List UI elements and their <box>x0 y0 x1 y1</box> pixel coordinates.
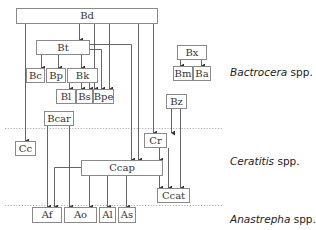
node-ba: Ba <box>193 66 211 81</box>
node-bz: Bz <box>166 94 187 109</box>
node-bpe: Bpe <box>93 89 114 104</box>
node-ccat: Ccat <box>157 188 190 203</box>
node-bk: Bk <box>67 68 98 83</box>
node-cc: Cc <box>15 141 36 156</box>
node-bs: Bs <box>76 89 93 104</box>
group-label-anastrepha: Anastrepha spp. <box>230 213 316 225</box>
node-af: Af <box>32 207 62 223</box>
genus-name: Bactrocera <box>230 66 287 78</box>
node-bt: Bt <box>36 40 90 55</box>
node-bm: Bm <box>173 66 193 81</box>
node-bc: Bc <box>26 68 45 83</box>
node-as: As <box>118 207 136 223</box>
genus-suffix: spp. <box>287 66 312 78</box>
node-bp: Bp <box>46 68 66 83</box>
node-bcar: Bcar <box>44 111 74 126</box>
node-al: Al <box>99 207 116 223</box>
node-ao: Ao <box>64 207 97 223</box>
edge-ccap-af <box>55 168 82 208</box>
genus-suffix: spp. <box>274 155 299 167</box>
node-bd: Bd <box>16 8 158 24</box>
genus-suffix: spp. <box>290 213 315 225</box>
group-label-bactrocera: Bactrocera spp. <box>230 66 313 78</box>
genus-name: Anastrepha <box>230 213 290 225</box>
genus-name: Ceratitis <box>230 155 274 167</box>
node-bl: Bl <box>56 89 76 104</box>
group-label-ceratitis: Ceratitis spp. <box>230 155 300 167</box>
node-ccap: Ccap <box>81 160 163 176</box>
node-cr: Cr <box>144 133 167 148</box>
node-bx: Bx <box>177 45 207 60</box>
host-relationship-diagram: Bd Bt Bc Bp Bk Bl Bs Bpe Bx Bm Ba Bz Bca… <box>0 0 316 230</box>
